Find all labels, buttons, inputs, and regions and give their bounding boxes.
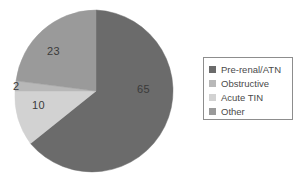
legend-item-obstructive[interactable]: Obstructive [209,77,292,90]
legend-item-pre-renal-atn[interactable]: Pre-renal/ATN [209,63,292,76]
pie-chart-graphic [0,0,200,178]
chart-legend: Pre-renal/ATN Obstructive Acute TIN Othe… [203,57,293,120]
slice-value-label-acute-tin: 10 [32,100,45,111]
legend-item-other[interactable]: Other [209,105,292,118]
legend-label-pre-renal-atn: Pre-renal/ATN [221,64,281,75]
pie-chart-figure: 65 10 2 23 Pre-renal/ATN Obstructive Acu… [0,0,303,178]
slice-value-label-obstructive: 2 [13,81,19,92]
legend-swatch-icon-acute-tin [209,94,216,101]
legend-label-acute-tin: Acute TIN [221,92,263,103]
slice-value-label-pre-renal-atn: 65 [137,84,150,95]
slice-value-label-other: 23 [47,46,60,57]
legend-swatch-icon-pre-renal-atn [209,66,216,73]
legend-item-acute-tin[interactable]: Acute TIN [209,91,292,104]
legend-swatch-icon-obstructive [209,80,216,87]
legend-swatch-icon-other [209,108,216,115]
legend-label-other: Other [221,106,245,117]
legend-label-obstructive: Obstructive [221,78,269,89]
